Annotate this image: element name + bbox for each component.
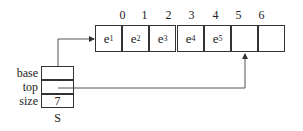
base-pointer-arrow (58, 39, 94, 67)
array-cell-5 (231, 25, 258, 52)
array-cell-6 (258, 25, 285, 52)
field-label-base: base (0, 66, 38, 81)
field-top (41, 80, 74, 94)
field-label-size: size (0, 94, 38, 109)
struct-name: S (41, 111, 74, 126)
array-cell-2: e3 (149, 25, 176, 52)
array-cell-0: e1 (95, 25, 122, 52)
array-index-3: 3 (178, 8, 205, 23)
field-size: 7 (41, 94, 74, 108)
array-cell-3: e4 (177, 25, 204, 52)
array-index-1: 1 (131, 8, 158, 23)
array-index-6: 6 (248, 8, 275, 23)
top-pointer-arrow (58, 54, 245, 88)
field-label-top: top (0, 80, 38, 95)
field-base (41, 66, 74, 80)
array-cell-1: e2 (122, 25, 149, 52)
array-cell-4: e5 (204, 25, 231, 52)
